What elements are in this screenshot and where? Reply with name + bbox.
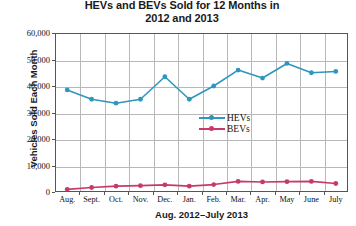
y-tick-label: 0: [2, 188, 50, 196]
x-tick-mark: [153, 192, 154, 195]
x-tick-label: Dec.: [157, 195, 172, 204]
x-tick-label: Nov.: [133, 195, 149, 204]
data-point-bevs: [89, 185, 94, 190]
data-point-bevs: [309, 179, 314, 184]
x-tick-mark: [177, 192, 178, 195]
data-point-hevs: [187, 97, 192, 102]
chart-figure: HEVs and BEVs Sold for 12 Months in 2012…: [0, 0, 356, 226]
x-tick-mark: [104, 192, 105, 195]
data-point-hevs: [285, 61, 290, 66]
data-point-bevs: [333, 181, 338, 186]
data-point-hevs: [89, 97, 94, 102]
data-point-bevs: [187, 184, 192, 189]
y-tick-mark: [52, 192, 55, 193]
data-point-hevs: [333, 69, 338, 74]
legend-label-bevs: BEVs: [225, 124, 250, 134]
legend-swatch-bevs: [199, 124, 225, 134]
x-tick-mark: [128, 192, 129, 195]
x-tick-label: Apr.: [255, 195, 269, 204]
x-tick-mark: [79, 192, 80, 195]
data-point-bevs: [260, 180, 265, 185]
legend-label-hevs: HEVs: [225, 113, 250, 123]
x-tick-label: Jan.: [183, 195, 196, 204]
y-tick-label: 40,000: [2, 82, 50, 90]
data-point-hevs: [162, 74, 167, 79]
series-line-hevs: [67, 63, 336, 103]
x-tick-label: Mar.: [231, 195, 246, 204]
data-point-hevs: [260, 76, 265, 81]
legend-dot-hevs: [209, 115, 214, 120]
data-point-bevs: [236, 179, 241, 184]
data-point-bevs: [285, 179, 290, 184]
legend-item-bevs[interactable]: BEVs: [199, 123, 250, 134]
data-point-bevs: [138, 183, 143, 188]
x-tick-label: Sept.: [83, 195, 100, 204]
data-point-hevs: [236, 68, 241, 73]
data-point-bevs: [65, 187, 70, 192]
legend-swatch-hevs: [199, 113, 225, 123]
y-tick-label: 30,000: [2, 109, 50, 117]
legend-item-hevs[interactable]: HEVs: [199, 112, 250, 123]
data-point-bevs: [114, 184, 119, 189]
y-tick-label: 10,000: [2, 162, 50, 170]
x-tick-mark: [202, 192, 203, 195]
data-point-bevs: [162, 182, 167, 187]
x-tick-label: Oct.: [109, 195, 123, 204]
data-point-hevs: [211, 84, 216, 89]
legend-dot-bevs: [209, 126, 214, 131]
y-tick-label: 20,000: [2, 135, 50, 143]
x-tick-label: May: [279, 195, 294, 204]
data-point-hevs: [309, 70, 314, 75]
x-tick-label: Feb.: [207, 195, 221, 204]
y-tick-label: 60,000: [2, 29, 50, 37]
x-tick-mark: [299, 192, 300, 195]
x-tick-label: June: [304, 195, 319, 204]
data-point-hevs: [138, 97, 143, 102]
chart-legend: HEVs BEVs: [197, 110, 254, 136]
data-point-hevs: [65, 88, 70, 93]
x-tick-mark: [324, 192, 325, 195]
x-tick-label: July: [329, 195, 343, 204]
x-tick-mark: [275, 192, 276, 195]
series-line-bevs: [67, 181, 336, 189]
y-tick-label: 50,000: [2, 56, 50, 64]
data-point-bevs: [211, 182, 216, 187]
x-tick-mark: [250, 192, 251, 195]
data-point-hevs: [114, 101, 119, 106]
x-tick-label: Aug.: [59, 195, 75, 204]
x-tick-mark: [226, 192, 227, 195]
